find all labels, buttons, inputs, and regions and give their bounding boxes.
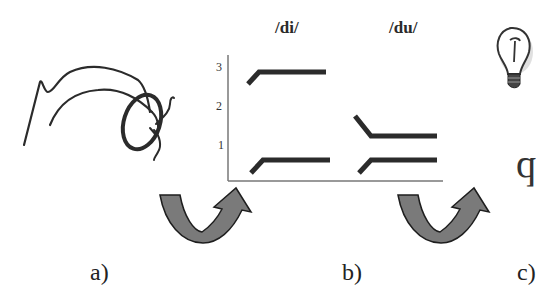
- panel-label-a: a): [90, 259, 109, 286]
- percept-symbol: d: [516, 148, 536, 195]
- panel-label-c: c): [517, 259, 536, 286]
- lightbulb-icon: [0, 0, 560, 306]
- panel-label-b: b): [342, 259, 362, 286]
